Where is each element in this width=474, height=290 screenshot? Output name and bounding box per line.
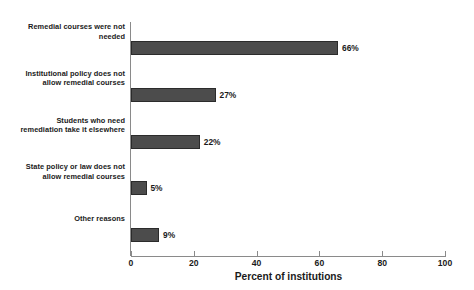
category-label: Other reasons [0,214,125,224]
bar [131,41,338,55]
bar-group: Institutional policy does not allow reme… [131,69,445,116]
bar-group: State policy or law does not allow remed… [131,162,445,209]
category-label-line: Remedial courses were not [0,22,125,32]
category-label-line: remediation take it elsewhere [0,125,125,135]
category-label-line: Other reasons [0,214,125,224]
bar [131,228,159,242]
category-label: Institutional policy does not allow reme… [0,69,125,88]
bar [131,181,147,195]
x-axis-tick [131,251,132,256]
bar-value-label: 27% [220,88,237,102]
category-label-line: Institutional policy does not [0,69,125,79]
x-axis-tick [319,251,320,256]
bar-value-label: 9% [163,228,175,242]
x-axis-tick-label: 20 [174,258,214,268]
category-label-line: State policy or law does not [0,162,125,172]
category-label: Remedial courses were not needed [0,22,125,41]
category-label-line: allow remedial courses [0,78,125,88]
x-axis-tick [445,251,446,256]
category-label: State policy or law does not allow remed… [0,162,125,181]
bar-group: Remedial courses were not needed 66% [131,22,445,69]
x-axis-tick [257,251,258,256]
category-label-line: allow remedial courses [0,172,125,182]
x-axis-line [131,256,446,257]
bar [131,135,200,149]
x-axis-tick-label: 100 [425,258,465,268]
bar-chart: Remedial courses were not needed 66% Ins… [0,0,474,290]
x-axis-title: Percent of institutions [131,271,446,282]
bar-value-label: 66% [342,41,359,55]
x-axis-tick [382,251,383,256]
x-axis-tick [194,251,195,256]
x-axis-tick-label: 0 [111,258,151,268]
bar-group: Other reasons 9% [131,209,445,256]
bar-value-label: 22% [204,135,221,149]
x-axis-tick-label: 60 [299,258,339,268]
bar-value-label: 5% [150,181,162,195]
x-axis-tick-label: 80 [362,258,402,268]
x-axis-tick-label: 40 [237,258,277,268]
category-label-line: Students who need [0,116,125,126]
bar [131,88,216,102]
category-label-line: needed [0,32,125,42]
plot-area: Remedial courses were not needed 66% Ins… [131,22,445,256]
category-label: Students who need remediation take it el… [0,116,125,135]
bar-group: Students who need remediation take it el… [131,116,445,163]
